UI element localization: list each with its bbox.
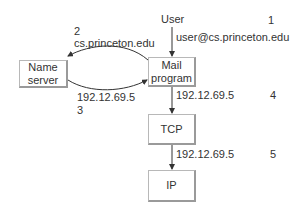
name-server-line1: Name [28, 61, 59, 74]
mail-program-line1: Mail [151, 59, 192, 72]
edge-1-label: user@cs.princeton.edu [176, 31, 289, 43]
edge-3-label: 192.12.69.5 [77, 91, 135, 103]
name-server-node: Name server [19, 60, 68, 88]
ip-node: IP [148, 170, 196, 202]
edge-4-label: 192.12.69.5 [176, 89, 234, 101]
name-server-line2: server [28, 74, 59, 87]
edge-3-step: 3 [77, 104, 83, 116]
edge-4-step: 4 [270, 89, 276, 101]
edge-1-step: 1 [268, 14, 274, 26]
edge-2-label: cs.princeton.edu [74, 37, 155, 49]
user-node-label: User [161, 13, 184, 25]
mail-program-node: Mail program [148, 57, 196, 87]
mail-program-line2: program [151, 72, 192, 85]
edge-2-step: 2 [74, 25, 80, 37]
tcp-node: TCP [148, 114, 196, 145]
edge-5-label: 192.12.69.5 [176, 148, 234, 160]
ip-label: IP [166, 179, 176, 192]
edge-nameserver-to-mail [68, 80, 147, 90]
edge-5-step: 5 [270, 148, 276, 160]
tcp-label: TCP [161, 123, 183, 136]
dns-lookup-diagram: User Name server Mail program TCP IP use… [0, 0, 302, 215]
